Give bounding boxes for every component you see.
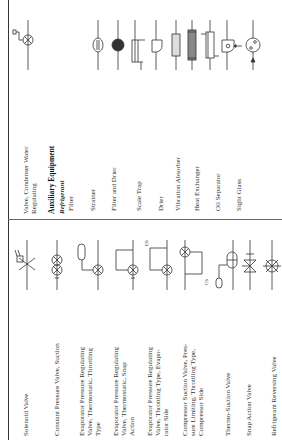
oil-separator-symbol bbox=[218, 20, 242, 70]
filter-drier-symbol bbox=[127, 20, 149, 70]
filter-symbol bbox=[88, 20, 108, 70]
label-epr-thermostatic-throttling: Evaporator Pressure Regulating Valve, Th… bbox=[78, 347, 102, 436]
epr-thermostatic-throttling-symbol bbox=[68, 240, 108, 290]
top-rule bbox=[8, 0, 9, 440]
heat-exchanger-symbol bbox=[200, 20, 220, 70]
label-thermo-suction-valve: Thermo-Suction Valve bbox=[224, 373, 232, 436]
label-compressor-suction-valve: Compressor Suction Valve, Pres- sure Lim… bbox=[181, 344, 205, 436]
label-vibration-absorber: Vibration Absorber bbox=[174, 157, 182, 211]
column-divider bbox=[8, 219, 282, 220]
label-solenoid-valve: Solenoid Valve bbox=[22, 394, 30, 436]
vibration-absorber-symbol bbox=[184, 20, 200, 70]
label-reversing-valve: Refrigerant Reversing Valve bbox=[270, 356, 278, 436]
solenoid-valve-symbol bbox=[15, 240, 40, 290]
condenser-water-valve-symbol bbox=[14, 20, 38, 70]
strainer-symbol bbox=[108, 20, 128, 70]
label-filter: Filter bbox=[67, 196, 75, 211]
label-oil-separator: Oil Separator bbox=[214, 173, 222, 211]
scale-trap-symbol bbox=[148, 20, 170, 70]
epr-thermostatic-snap-symbol bbox=[106, 240, 142, 290]
document-page: Solenoid Valve Constant Pressure Valve, … bbox=[0, 0, 282, 440]
tag-cs: CS bbox=[203, 279, 211, 285]
label-drier: Drier bbox=[157, 196, 165, 211]
label-epr-throttling-evap: Evaporator Pressure Regulating Valve, Th… bbox=[146, 347, 170, 436]
tag-es: ES bbox=[143, 240, 151, 246]
label-scale-trap: Scale Trap bbox=[135, 181, 143, 211]
label-constant-pressure-valve: Constant Pressure Valve, Suction bbox=[53, 343, 61, 436]
label-snap-action-valve: Snap Action Valve bbox=[245, 384, 253, 436]
snap-action-valve-symbol bbox=[238, 240, 262, 290]
label-condenser-water-valve: Valve, Condenser Water Regulating bbox=[22, 146, 38, 214]
drier-symbol bbox=[168, 20, 184, 70]
epr-throttling-evaporator-symbol bbox=[140, 240, 176, 290]
constant-pressure-valve-symbol bbox=[45, 240, 70, 290]
label-heat-exchanger: Heat Exchanger bbox=[193, 166, 201, 211]
label-strainer: Strainer bbox=[89, 189, 97, 211]
heading-auxiliary-equipment: Auxiliary Equipment bbox=[48, 146, 56, 214]
subheading-refrigerant: Refrigerant bbox=[58, 181, 66, 214]
label-filter-drier: Filter and Drier bbox=[110, 167, 118, 211]
label-sight-glass: Sight Glass bbox=[235, 179, 243, 211]
label-epr-thermostatic-snap: Evaporator Pressure Regulating Valve, Th… bbox=[112, 347, 136, 436]
reversing-valve-symbol bbox=[262, 240, 282, 290]
sight-glass-symbol bbox=[242, 20, 268, 70]
